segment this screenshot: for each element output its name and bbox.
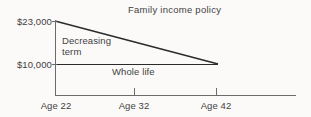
x-axis-tick-label-age22: Age 22	[31, 100, 81, 111]
x-axis-tick-label-age42: Age 42	[191, 100, 241, 111]
x-axis-tick-label-age32: Age 32	[109, 100, 159, 111]
series-annotation-decreasing-term-line1: Decreasing	[62, 35, 111, 46]
series-annotation-decreasing-term-line2: term	[62, 46, 81, 57]
series-annotation-whole-life: Whole life	[112, 66, 155, 77]
family-income-policy-chart: Family income policy $23,000 $10,000 Dec…	[0, 0, 311, 117]
